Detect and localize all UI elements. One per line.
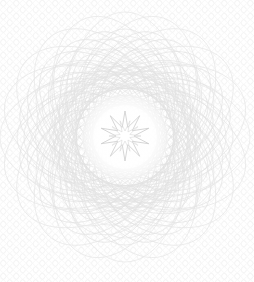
guilloche-canvas (0, 0, 254, 282)
guilloche-artwork (0, 0, 254, 282)
center-clear-disc (79, 91, 171, 183)
